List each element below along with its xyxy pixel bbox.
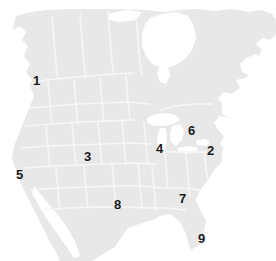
region-label-2: 2 [207, 144, 214, 157]
region-label-5: 5 [16, 168, 23, 181]
map-graphic [0, 0, 276, 261]
region-label-4: 4 [156, 142, 163, 155]
region-label-1: 1 [33, 74, 40, 87]
north-america-map-figure: 1 2 3 4 5 6 7 8 9 [0, 0, 276, 261]
region-label-6: 6 [188, 124, 195, 137]
region-label-3: 3 [84, 150, 91, 163]
region-label-8: 8 [114, 198, 121, 211]
region-label-7: 7 [179, 192, 186, 205]
region-label-9: 9 [198, 232, 205, 245]
